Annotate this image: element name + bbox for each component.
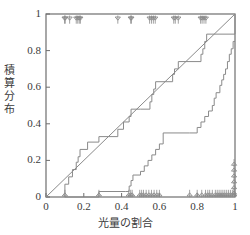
y-tick-label-5: 1 bbox=[15, 8, 41, 19]
y-axis-label-char-3: 分 bbox=[2, 90, 16, 103]
rug-right-mark-5 bbox=[231, 159, 236, 166]
y-axis-label-char-4: 布 bbox=[2, 103, 16, 116]
series-right-step-ecdf bbox=[65, 41, 235, 197]
x-tick-label-3: 0.6 bbox=[144, 201, 174, 212]
cumulative-distribution-chart: 積 算 分 布 光量の割合 00.20.40.60.8100.20.40.60.… bbox=[0, 0, 250, 235]
y-tick-label-3: 0.6 bbox=[15, 81, 41, 92]
y-axis-label-char-1: 積 bbox=[2, 64, 16, 77]
rug-bottom-mark-1 bbox=[96, 190, 101, 197]
x-axis-label: 光量の割合 bbox=[0, 214, 250, 230]
x-tick-label-4: 0.8 bbox=[182, 201, 212, 212]
series-left-step-ecdf bbox=[65, 14, 235, 197]
y-tick-label-4: 0.8 bbox=[15, 45, 41, 56]
x-tick-label-5: 1 bbox=[220, 201, 250, 212]
rug-top-mark-16 bbox=[176, 16, 181, 24]
rug-top-mark-2 bbox=[67, 16, 72, 24]
rug-bottom-mark-0 bbox=[62, 190, 67, 197]
y-tick-label-2: 0.4 bbox=[15, 118, 41, 129]
rug-bottom-mark-14 bbox=[187, 190, 192, 197]
x-tick-label-0: 0 bbox=[31, 201, 61, 212]
y-axis-label-char-2: 算 bbox=[2, 77, 16, 90]
x-tick-label-1: 0.2 bbox=[69, 201, 99, 212]
rug-top-mark-7 bbox=[115, 16, 120, 24]
y-axis-label: 積 算 分 布 bbox=[2, 64, 16, 116]
y-tick-label-1: 0.2 bbox=[15, 154, 41, 165]
x-tick-label-2: 0.4 bbox=[107, 201, 137, 212]
